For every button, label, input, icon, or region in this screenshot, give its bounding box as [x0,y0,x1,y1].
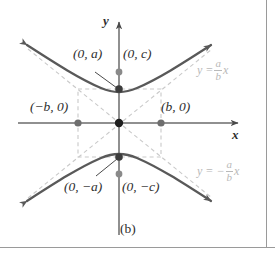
point-vertex-upper [115,85,123,93]
asymptote-lower-denominator: b [226,172,234,184]
label-focus-lower: (0, −c) [122,180,160,194]
asymptote-upper-variable: x [223,63,228,77]
label-co-vertex-right: (b, 0) [161,100,190,114]
asymptote-lower-fraction: ab [226,159,234,183]
asymptote-upper-numerator: a [214,58,222,71]
asymptote-lower-numerator: a [226,159,234,172]
point-vertex-lower [115,153,123,161]
asymptote-upper-denominator: b [214,71,222,83]
label-focus-upper: (0, c) [123,47,151,61]
point-origin [115,119,123,127]
point-co-vertex-right [157,119,164,126]
x-axis-label: x [232,128,239,141]
figure-caption: (b) [120,222,136,236]
asymptote-label-lower-right: y = −abx [197,159,239,183]
asymptote-label-upper-right: y =abx [197,58,228,82]
asymptote-lower-variable: x [234,164,239,178]
label-co-vertex-left: (−b, 0) [30,100,68,114]
y-axis-label: y [103,14,109,27]
asymptote-upper-fraction: ab [214,58,222,82]
leader-line-vertex-lower [96,159,117,176]
point-focus-lower [116,171,123,178]
label-vertex-lower: (0, −a) [64,180,102,194]
asymptote-lower-lhs: y = − [197,164,225,178]
point-focus-upper [116,69,123,76]
page-bottom-rule [0,247,275,248]
point-co-vertex-left [74,119,81,126]
label-vertex-upper: (0, a) [73,47,102,61]
page-right-rule [266,0,267,248]
hyperbola-figure: y x (0, a) (0, c) (−b, 0) (b, 0) (0, −a)… [0,0,275,255]
asymptote-upper-lhs: y = [197,63,213,77]
